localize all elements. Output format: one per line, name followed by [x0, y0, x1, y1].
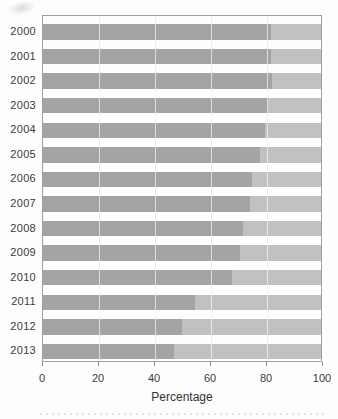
dark-gray-segment: [43, 295, 195, 310]
light-gray-segment: [232, 270, 321, 285]
y-tick-label: 2000: [0, 24, 36, 38]
bars-layer: [43, 16, 321, 361]
dark-gray-segment: [43, 147, 260, 162]
dark-gray-segment: [43, 123, 265, 138]
y-tick-label: 2012: [0, 319, 36, 333]
y-tick-label: 2008: [0, 221, 36, 235]
bar-row-2001: [43, 49, 321, 64]
x-tick-label: 60: [193, 372, 227, 385]
bar-row-2007: [43, 196, 321, 211]
x-tick-label: 40: [137, 372, 171, 385]
dark-gray-segment: [43, 49, 271, 64]
bar-row-2000: [43, 24, 321, 39]
x-axis-tick: [154, 362, 155, 366]
x-tick-label: 20: [81, 372, 115, 385]
light-gray-segment: [243, 221, 321, 236]
light-gray-segment: [195, 295, 321, 310]
y-tick-label: 2005: [0, 147, 36, 161]
y-tick-label: 2010: [0, 270, 36, 284]
x-axis-tick: [322, 362, 323, 366]
y-tick-label: 2009: [0, 245, 36, 259]
stacked-bar-chart-figure: 2000200120022003200420052006200720082009…: [0, 0, 338, 419]
scan-dots-artifact: [40, 413, 326, 415]
dark-gray-segment: [43, 24, 271, 39]
light-gray-segment: [252, 172, 322, 187]
light-gray-segment: [265, 123, 321, 138]
dark-gray-segment: [43, 221, 243, 236]
light-gray-segment: [250, 196, 321, 211]
light-gray-segment: [240, 245, 321, 260]
x-axis-tick: [98, 362, 99, 366]
x-axis-title: Percentage: [42, 390, 322, 404]
y-tick-label: 2003: [0, 98, 36, 112]
y-tick-label: 2006: [0, 171, 36, 185]
dark-gray-segment: [43, 319, 182, 334]
y-tick-label: 2001: [0, 49, 36, 63]
x-axis-tick: [210, 362, 211, 366]
dark-gray-segment: [43, 245, 240, 260]
bar-row-2004: [43, 123, 321, 138]
y-tick-label: 2002: [0, 73, 36, 87]
x-axis-tick: [42, 362, 43, 366]
bar-row-2005: [43, 147, 321, 162]
bar-row-2003: [43, 98, 321, 113]
dark-gray-segment: [43, 196, 250, 211]
dark-gray-segment: [43, 270, 232, 285]
light-gray-segment: [271, 49, 321, 64]
y-tick-label: 2007: [0, 196, 36, 210]
plot-area: [42, 15, 322, 362]
light-gray-segment: [268, 98, 321, 113]
bar-row-2006: [43, 172, 321, 187]
x-tick-label: 0: [25, 372, 59, 385]
light-gray-segment: [182, 319, 321, 334]
bar-row-2010: [43, 270, 321, 285]
x-tick-label: 100: [305, 372, 338, 385]
light-gray-segment: [174, 344, 321, 359]
bar-row-2002: [43, 73, 321, 88]
x-axis-tick: [266, 362, 267, 366]
bar-row-2011: [43, 295, 321, 310]
light-gray-segment: [272, 73, 321, 88]
bar-row-2009: [43, 245, 321, 260]
x-tick-label: 80: [249, 372, 283, 385]
y-axis-labels: 2000200120022003200420052006200720082009…: [0, 0, 36, 419]
bar-row-2008: [43, 221, 321, 236]
dark-gray-segment: [43, 344, 174, 359]
bar-row-2012: [43, 319, 321, 334]
y-tick-label: 2013: [0, 343, 36, 357]
bar-row-2013: [43, 344, 321, 359]
y-tick-label: 2004: [0, 122, 36, 136]
light-gray-segment: [271, 24, 321, 39]
dark-gray-segment: [43, 172, 252, 187]
dark-gray-segment: [43, 98, 268, 113]
y-tick-label: 2011: [0, 294, 36, 308]
dark-gray-segment: [43, 73, 272, 88]
light-gray-segment: [260, 147, 321, 162]
